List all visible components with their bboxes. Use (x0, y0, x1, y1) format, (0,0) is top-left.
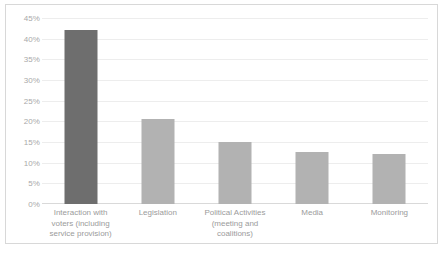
bar[interactable] (296, 152, 329, 204)
x-axis-category-label: Interaction with voters (including servi… (42, 208, 119, 240)
bar-slot (274, 18, 351, 204)
bar-slot (119, 18, 196, 204)
bar-slot (351, 18, 428, 204)
bar-chart-figure: 0%5%10%15%20%25%30%35%40%45% Interaction… (0, 0, 447, 256)
y-axis-label-group: 0%5%10%15%20%25%30%35%40%45% (5, 18, 40, 204)
y-axis-tick-label: 0% (5, 200, 40, 209)
y-axis-tick-label: 25% (5, 96, 40, 105)
bar[interactable] (64, 30, 97, 204)
bar[interactable] (141, 119, 174, 204)
x-axis-category-label: Legislation (119, 208, 196, 219)
x-axis-category-label: Media (274, 208, 351, 219)
plot-area (42, 18, 428, 204)
bar-slot (42, 18, 119, 204)
y-axis-tick-label: 15% (5, 138, 40, 147)
x-axis-category-label: Political Activities (meeting and coalit… (196, 208, 273, 240)
y-axis-tick-label: 5% (5, 179, 40, 188)
y-axis-tick-label: 30% (5, 76, 40, 85)
y-axis-tick-label: 10% (5, 158, 40, 167)
x-axis-label-group: Interaction with voters (including servi… (42, 208, 428, 244)
bar[interactable] (218, 142, 251, 204)
bar-slot (196, 18, 273, 204)
y-axis-tick-label: 45% (5, 14, 40, 23)
y-axis-tick-label: 20% (5, 117, 40, 126)
bar-group (42, 18, 428, 204)
bar[interactable] (373, 154, 406, 204)
y-axis-tick-label: 40% (5, 34, 40, 43)
x-axis-category-label: Monitoring (351, 208, 428, 219)
y-axis-tick-label: 35% (5, 55, 40, 64)
